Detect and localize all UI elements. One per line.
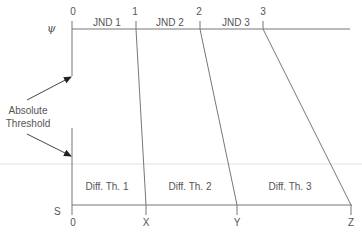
arrow-down-icon <box>27 134 71 156</box>
top-tick-label-3: 3 <box>260 7 266 17</box>
top-tick-label-2: 2 <box>196 7 202 17</box>
arrow-up-icon <box>27 77 71 100</box>
bottom-tick-label-0: 0 <box>70 218 76 228</box>
absolute-threshold-line1: Absolute <box>4 104 52 117</box>
bottom-tick-label-x: X <box>143 218 150 228</box>
diff-th-label-1: Diff. Th. 1 <box>86 182 129 192</box>
diff-th-label-2: Diff. Th. 2 <box>169 182 212 192</box>
mapping-line-3 <box>263 29 351 205</box>
jnd-label-2: JND 2 <box>156 18 184 28</box>
s-axis-symbol: S <box>54 207 61 217</box>
absolute-threshold-line2: Threshold <box>4 117 52 130</box>
top-tick-label-1: 1 <box>132 7 138 17</box>
mapping-line-1 <box>136 29 146 205</box>
diff-th-label-3: Diff. Th. 3 <box>269 182 312 192</box>
psi-axis-symbol: ψ <box>47 23 56 34</box>
top-tick-label-0: 0 <box>70 7 76 17</box>
bottom-tick-label-z: Z <box>348 218 354 228</box>
jnd-label-1: JND 1 <box>93 18 121 28</box>
bottom-tick-label-y: Y <box>234 218 241 228</box>
jnd-label-3: JND 3 <box>222 18 250 28</box>
mapping-line-2 <box>200 29 237 205</box>
absolute-threshold-label: Absolute Threshold <box>4 104 52 130</box>
